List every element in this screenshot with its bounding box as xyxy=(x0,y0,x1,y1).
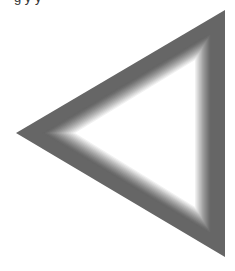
beveled-triangle-figure xyxy=(0,0,235,271)
triangle-gradient-bands xyxy=(16,10,225,257)
